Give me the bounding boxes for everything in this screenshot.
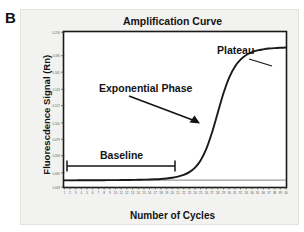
y-tick-label: 0.036: [53, 172, 61, 176]
x-tick-label: 10: [114, 191, 118, 195]
figure-panel-b: B Amplification Curve Fluorescdence Sign…: [0, 0, 304, 232]
plot-area: 0.0180.0360.0580.0790.1000.1220.1430.165…: [0, 0, 304, 232]
x-tick-label: 1: [63, 191, 65, 195]
x-tick-label: 27: [210, 191, 214, 195]
x-tick-label: 11: [120, 191, 123, 195]
x-axis-tick-labels: 1234567891011121314151617181920212223242…: [63, 191, 288, 195]
y-tick-label: 0.100: [53, 122, 61, 126]
x-tick-label: 16: [148, 191, 152, 195]
x-tick-label: 28: [216, 191, 220, 195]
x-tick-label: 40: [284, 191, 288, 195]
x-tick-label: 6: [92, 191, 94, 195]
x-tick-label: 4: [80, 191, 82, 195]
y-tick-label: 0.079: [53, 138, 61, 142]
y-tick-label: 0.122: [53, 104, 61, 108]
x-tick-label: 34: [250, 191, 254, 195]
x-tick-label: 9: [109, 191, 111, 195]
x-tick-label: 33: [244, 191, 248, 195]
y-tick-label: 0.186: [53, 54, 61, 58]
y-tick-label: 0.216: [53, 31, 61, 35]
annotation-baseline: Baseline: [100, 149, 143, 161]
x-tick-label: 17: [154, 191, 158, 195]
x-tick-label: 29: [222, 191, 226, 195]
x-tick-label: 15: [142, 191, 146, 195]
x-tick-label: 12: [125, 191, 129, 195]
annotation-plateau: Plateau: [217, 44, 254, 56]
y-tick-label: 0.058: [53, 154, 61, 158]
x-tick-label: 26: [205, 191, 209, 195]
x-tick-label: 19: [165, 191, 169, 195]
x-tick-label: 36: [262, 191, 266, 195]
x-tick-label: 30: [227, 191, 231, 195]
annotation-exponential-phase: Exponential Phase: [99, 82, 193, 94]
x-tick-label: 7: [98, 191, 100, 195]
x-tick-label: 3: [75, 191, 77, 195]
y-tick-label: 0.143: [53, 88, 61, 92]
x-tick-label: 31: [233, 191, 237, 195]
y-tick-label: 0.018: [53, 186, 61, 190]
x-tick-label: 5: [86, 191, 88, 195]
x-tick-label: 2: [69, 191, 71, 195]
x-tick-label: 35: [256, 191, 260, 195]
x-tick-label: 25: [199, 191, 203, 195]
x-tick-label: 20: [171, 191, 175, 195]
x-tick-label: 18: [159, 191, 163, 195]
x-tick-label: 23: [188, 191, 192, 195]
x-tick-label: 13: [131, 191, 135, 195]
x-tick-label: 21: [176, 191, 180, 195]
y-axis-tick-labels: 0.0180.0360.0580.0790.1000.1220.1430.165…: [53, 31, 61, 190]
x-tick-label: 8: [103, 191, 105, 195]
x-tick-label: 24: [193, 191, 197, 195]
x-tick-label: 39: [279, 191, 283, 195]
x-tick-label: 37: [267, 191, 271, 195]
x-tick-label: 32: [239, 191, 243, 195]
x-tick-label: 38: [273, 191, 277, 195]
x-tick-label: 22: [182, 191, 186, 195]
y-tick-label: 0.165: [53, 71, 61, 75]
x-tick-label: 14: [136, 191, 140, 195]
